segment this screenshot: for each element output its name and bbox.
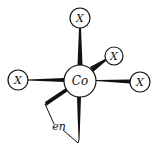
ligand-left: X [8, 70, 28, 90]
ligand-right-label: X [135, 76, 145, 89]
ligand-upper-right-label: X [109, 50, 119, 63]
ligand-right: X [130, 72, 150, 92]
complex-diagram: Co X X X X en [0, 0, 159, 150]
bond-en-2 [77, 97, 81, 140]
ligand-top: X [70, 8, 90, 28]
ligand-top-label: X [75, 12, 85, 25]
ligand-upper-right: X [105, 47, 123, 65]
bond-left [28, 78, 64, 82]
ligand-left-label: X [13, 74, 23, 87]
bond-right [96, 80, 130, 84]
central-atom-label: Co [72, 74, 88, 88]
bond-top [78, 28, 83, 65]
bond-en-1 [45, 88, 68, 106]
central-atom-co: Co [64, 65, 96, 97]
chelate-en-label: en [52, 120, 66, 133]
